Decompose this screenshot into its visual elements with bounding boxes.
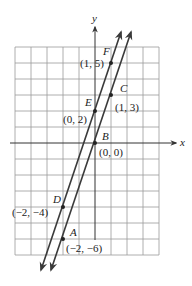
grid [15, 47, 159, 255]
label-d-coord: (−2, −4) [12, 206, 49, 219]
label-d-letter: D [52, 193, 61, 205]
label-b-letter: B [102, 130, 109, 142]
x-axis-label: x [179, 136, 185, 148]
label-f-coord: (1, 5) [80, 57, 104, 70]
coordinate-graph: x y F (1, 5) C (1, 3) E (0, 2) B (0, 0) … [0, 0, 192, 286]
label-c-letter: C [120, 82, 128, 94]
point-d [61, 205, 65, 209]
point-e [93, 109, 97, 113]
label-e-coord: (0, 2) [63, 113, 87, 126]
label-c-coord: (1, 3) [115, 101, 139, 114]
label-f-letter: F [102, 45, 110, 57]
y-axis-label: y [91, 12, 97, 24]
label-e-letter: E [84, 96, 92, 108]
point-b [93, 141, 97, 145]
label-a-letter: A [69, 226, 77, 238]
label-a-coord: (−2, −6) [66, 242, 103, 255]
point-a [61, 237, 65, 241]
point-f [109, 61, 113, 65]
point-c [109, 93, 113, 97]
label-b-coord: (0, 0) [99, 146, 123, 159]
